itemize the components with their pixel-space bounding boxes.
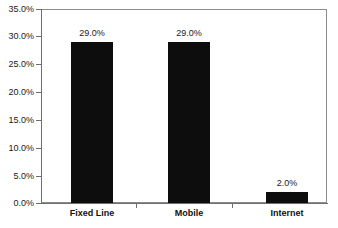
bar-internet [266, 192, 308, 203]
y-axis-label-15: 15.0% [0, 116, 34, 125]
y-axis-label-35: 35.0% [0, 5, 34, 14]
x-axis-line [41, 203, 328, 204]
y-axis-line [41, 9, 42, 204]
y-axis-label-25: 25.0% [0, 60, 34, 69]
y-axis-label-30: 30.0% [0, 32, 34, 41]
y-axis-tick [36, 36, 41, 37]
y-axis-tick [36, 64, 41, 65]
y-axis-tick [36, 9, 41, 10]
y-axis-tick [36, 176, 41, 177]
x-axis-label-internet: Internet [247, 208, 327, 218]
y-axis-label-10: 10.0% [0, 144, 34, 153]
y-axis-label-0: 0.0% [0, 199, 34, 208]
x-axis-label-fixed-line: Fixed Line [52, 208, 132, 218]
y-axis-tick [36, 203, 41, 204]
bar-fixed-line [71, 42, 113, 203]
bar-value-label-mobile: 29.0% [159, 28, 219, 38]
y-axis-label-5: 5.0% [0, 172, 34, 181]
x-axis-tick [232, 204, 233, 208]
y-axis-tick [36, 120, 41, 121]
bar-chart: 35.0% 30.0% 25.0% 20.0% 15.0% 10.0% 5.0%… [0, 0, 338, 228]
x-axis-tick [136, 204, 137, 208]
y-axis-label-20: 20.0% [0, 88, 34, 97]
y-axis-tick [36, 92, 41, 93]
bar-mobile [168, 42, 210, 203]
x-axis-label-mobile: Mobile [149, 208, 229, 218]
bar-value-label-internet: 2.0% [257, 178, 317, 188]
y-axis-tick [36, 148, 41, 149]
bar-value-label-fixed-line: 29.0% [62, 28, 122, 38]
